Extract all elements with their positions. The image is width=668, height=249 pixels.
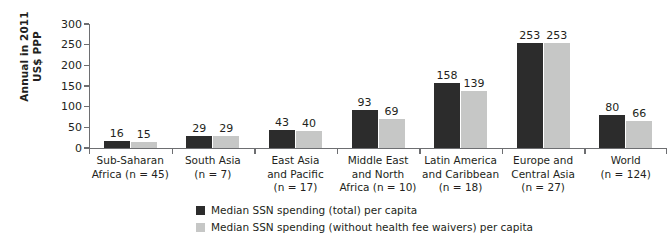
- y-axis-tick-label: 150: [37, 79, 82, 94]
- y-axis-tick-label: 100: [37, 99, 82, 114]
- bar-value-label: 29: [213, 122, 239, 135]
- bar: 40: [296, 131, 322, 148]
- bar-value-label: 40: [296, 117, 322, 130]
- bar-value-label: 29: [186, 122, 212, 135]
- x-axis-category-label: Latin America and Caribbean (n = 18): [419, 154, 502, 195]
- legend-swatch-icon: [196, 223, 205, 232]
- bar-group: 1615: [104, 24, 157, 148]
- bar-group: 158139: [434, 24, 487, 148]
- x-axis-category-label: Europe and Central Asia (n = 27): [502, 154, 585, 195]
- y-axis-tick-mark: [84, 106, 89, 107]
- y-axis-tick-mark: [84, 85, 89, 86]
- bar-value-label: 43: [269, 116, 295, 129]
- y-axis-tick-label: 50: [37, 120, 82, 135]
- y-axis-tick-mark: [84, 127, 89, 128]
- bar: 253: [544, 43, 570, 148]
- bar: 43: [269, 130, 295, 148]
- x-axis-category-label: Sub-Saharan Africa (n = 45): [89, 154, 172, 181]
- bar: 29: [186, 136, 212, 148]
- bar: 93: [352, 110, 378, 148]
- y-axis-tick-mark: [84, 23, 89, 24]
- bar-group: 2929: [186, 24, 239, 148]
- y-axis-tick-mark: [84, 65, 89, 66]
- bar: 16: [104, 141, 130, 148]
- bar: 253: [517, 43, 543, 148]
- bar: 66: [626, 121, 652, 148]
- bar-value-label: 15: [131, 128, 157, 141]
- legend-label: Median SSN spending (total) per capita: [211, 204, 417, 217]
- bar-value-label: 139: [461, 77, 487, 90]
- x-axis-category-label: Middle East and North Africa (n = 10): [337, 154, 420, 195]
- bar: 69: [379, 119, 405, 148]
- bar-value-label: 16: [104, 127, 130, 140]
- bar: 29: [213, 136, 239, 148]
- bar-group: 9369: [352, 24, 405, 148]
- bar: 139: [461, 91, 487, 148]
- y-axis-tick-label: 200: [37, 58, 82, 73]
- x-axis-category-label: South Asia (n = 7): [172, 154, 255, 181]
- bar-value-label: 253: [517, 29, 543, 42]
- x-axis-line: [89, 148, 667, 149]
- x-axis-category-label: East Asia and Pacific (n = 17): [254, 154, 337, 195]
- bar-value-label: 66: [626, 107, 652, 120]
- y-axis-tick-label: 250: [37, 37, 82, 52]
- plot-area: 0501001502002503001615292943409369158139…: [89, 24, 667, 148]
- bar-value-label: 93: [352, 96, 378, 109]
- bar: 15: [131, 142, 157, 148]
- bar-chart-figure: Annual in 2011 US$ PPP 05010015020025030…: [0, 0, 668, 249]
- x-axis-category-label: World (n = 124): [584, 154, 667, 181]
- bar-group: 253253: [517, 24, 570, 148]
- bar-value-label: 69: [379, 105, 405, 118]
- bar: 80: [599, 115, 625, 148]
- legend-label: Median SSN spending (without health fee …: [211, 221, 533, 234]
- bar-value-label: 80: [599, 101, 625, 114]
- y-axis-tick-mark: [84, 44, 89, 45]
- bar-group: 4340: [269, 24, 322, 148]
- bar-value-label: 253: [544, 29, 570, 42]
- bar-value-label: 158: [434, 69, 460, 82]
- bar-group: 8066: [599, 24, 652, 148]
- y-axis-tick-label: 300: [37, 17, 82, 32]
- y-axis-tick-label: 0: [37, 141, 82, 156]
- legend-item: Median SSN spending (total) per capita: [196, 203, 533, 218]
- bar: 158: [434, 83, 460, 148]
- chart-legend: Median SSN spending (total) per capitaMe…: [196, 203, 533, 237]
- legend-item: Median SSN spending (without health fee …: [196, 220, 533, 235]
- legend-swatch-icon: [196, 206, 205, 215]
